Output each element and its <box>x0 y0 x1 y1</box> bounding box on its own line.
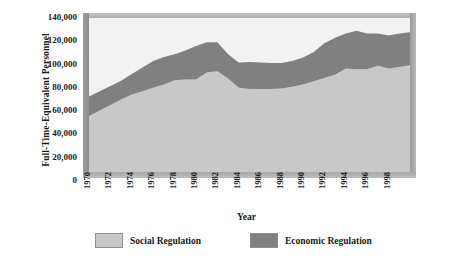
plot-area <box>89 18 410 172</box>
x-tick-label: 1982 <box>210 172 220 202</box>
legend-swatch-economic-regulation <box>250 233 278 248</box>
y-axis-tick-labels: 020,00040,00060,00080,000100,000120,0001… <box>26 13 79 176</box>
legend-item-social-regulation: Social Regulation <box>95 232 201 249</box>
legend-swatch-social-regulation <box>95 233 123 248</box>
x-tick-label: 1972 <box>103 172 113 202</box>
x-tick-label: 1976 <box>146 172 156 202</box>
x-tick-label: 1984 <box>232 172 242 202</box>
y-tick-label: 140,000 <box>48 12 77 22</box>
plot-frame <box>83 13 416 178</box>
x-tick-label: 1990 <box>296 172 306 202</box>
y-tick-label: 100,000 <box>48 59 77 69</box>
legend-item-economic-regulation: Economic Regulation <box>250 232 372 249</box>
x-tick-label: 1974 <box>125 172 135 202</box>
legend-label-economic-regulation: Economic Regulation <box>285 236 372 246</box>
x-tick-label: 1978 <box>168 172 178 202</box>
chart-figure: Full-Time-Equivalent Personnel 020,00040… <box>0 0 462 265</box>
x-tick-label: 1996 <box>360 172 370 202</box>
chart-legend: Social Regulation Economic Regulation <box>83 232 423 254</box>
x-tick-label: 1988 <box>275 172 285 202</box>
y-tick-label: 20,000 <box>52 152 77 162</box>
x-tick-label: 1992 <box>317 172 327 202</box>
legend-label-social-regulation: Social Regulation <box>130 236 201 246</box>
x-tick-label: 1986 <box>253 172 263 202</box>
x-axis-tick-labels: 1970197219741976197819801982198419861988… <box>83 180 416 210</box>
y-tick-label: 40,000 <box>52 128 77 138</box>
x-tick-label: 1980 <box>189 172 199 202</box>
y-tick-label: 60,000 <box>52 105 77 115</box>
x-tick-label: 1970 <box>82 172 92 202</box>
x-tick-label: 1994 <box>339 172 349 202</box>
x-tick-label: 1998 <box>382 172 392 202</box>
x-axis-title: Year <box>83 212 410 222</box>
y-tick-label: 80,000 <box>52 82 77 92</box>
stacked-area-chart <box>89 18 410 172</box>
plot-bevel-right <box>410 13 416 178</box>
y-tick-label: 0 <box>73 175 78 185</box>
y-tick-label: 120,000 <box>48 35 77 45</box>
